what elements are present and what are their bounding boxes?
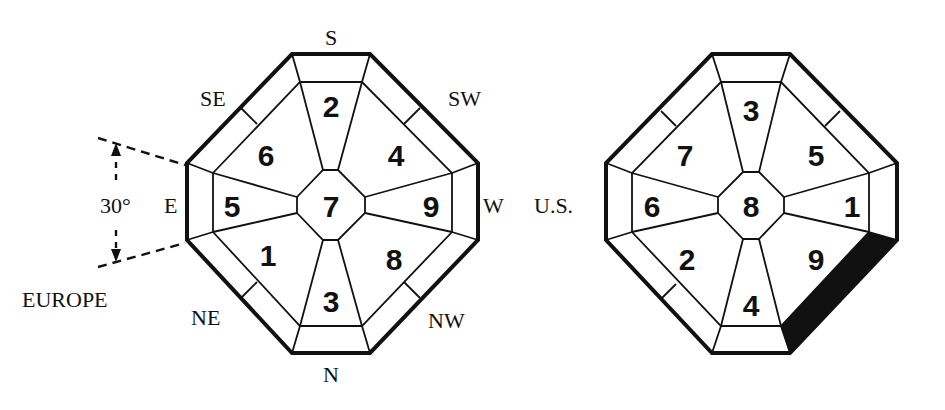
angle-label: 30° (100, 193, 131, 218)
direction-label-ne: NE (191, 305, 220, 330)
us-sector-top-left: 7 (677, 139, 694, 172)
europe-sector-top-right: 4 (388, 139, 405, 172)
europe-sector-bottom-right: 8 (386, 243, 403, 276)
direction-label-e: E (164, 193, 177, 218)
us-sector-left: 6 (644, 190, 661, 223)
europe-compass: 7 2 4 9 8 3 1 5 6 S SW W NW N NE E SE 30… (22, 25, 504, 387)
angle-dashed-line-upper (98, 138, 185, 165)
direction-label-sw: SW (448, 86, 481, 111)
direction-label-n: N (323, 362, 339, 387)
region-label-europe: EUROPE (22, 287, 108, 312)
europe-sector-top-left: 6 (258, 139, 275, 172)
us-sector-center: 8 (743, 190, 760, 223)
us-sector-top-right: 5 (808, 139, 825, 172)
europe-sector-right: 9 (423, 190, 440, 223)
us-compass: 8 3 5 1 9 4 2 6 7 U.S. (534, 54, 897, 353)
europe-sector-bottom-left: 1 (260, 239, 277, 272)
direction-label-nw: NW (428, 308, 465, 333)
us-sector-top: 3 (743, 94, 760, 127)
europe-sector-top: 2 (323, 90, 340, 123)
us-highlighted-segment (781, 232, 897, 353)
europe-sector-left: 5 (224, 190, 241, 223)
us-sector-right: 1 (844, 190, 861, 223)
direction-label-se: SE (200, 86, 226, 111)
us-sector-bottom: 4 (743, 289, 760, 322)
us-sector-bottom-left: 2 (679, 243, 696, 276)
europe-sector-bottom: 3 (323, 285, 340, 318)
diagram-canvas: 7 2 4 9 8 3 1 5 6 S SW W NW N NE E SE 30… (0, 0, 945, 410)
region-label-us: U.S. (534, 193, 573, 218)
us-sector-bottom-right: 9 (808, 243, 825, 276)
direction-label-s: S (325, 25, 337, 50)
direction-label-w: W (483, 193, 504, 218)
europe-sector-center: 7 (323, 190, 340, 223)
angle-dashed-line-lower (98, 243, 185, 267)
